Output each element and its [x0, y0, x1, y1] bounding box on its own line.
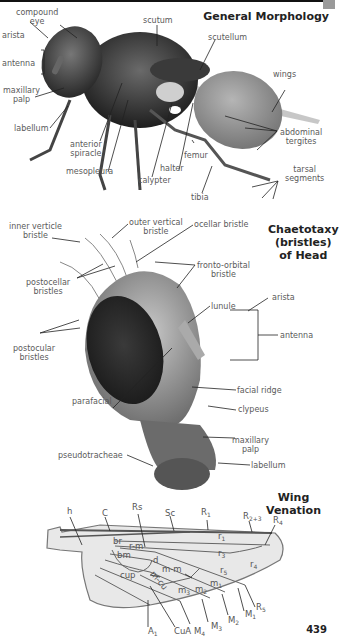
- cell-r5: r5: [220, 566, 227, 577]
- vein-R4: R4: [273, 516, 283, 527]
- label-maxillary-palp: maxillary palp: [3, 86, 40, 104]
- label-mesopleura: mesopleura: [66, 167, 113, 176]
- label-parafacial: parafacial: [72, 397, 112, 406]
- label-scutum: scutum: [143, 16, 173, 25]
- chaetotaxy-title: Chaetotaxy (bristles) of Head: [268, 223, 339, 262]
- vein-M2: M2: [228, 616, 239, 627]
- label-head-arista: arista: [272, 293, 295, 302]
- label-scutellum: scutellum: [208, 33, 247, 42]
- label-anterior-spiracle: anterior spiracle: [70, 140, 102, 158]
- vein-h: h: [67, 507, 72, 516]
- label-tarsal-segments: tarsal segments: [285, 165, 324, 183]
- label-halter: halter: [160, 164, 184, 173]
- cell-br: br: [113, 537, 122, 546]
- vein-CuA: CuA: [174, 627, 191, 636]
- cell-d: d: [153, 556, 158, 565]
- label-ocellar-bristle: ocellar bristle: [194, 220, 248, 229]
- vein-m-m: m-m: [162, 565, 182, 574]
- vein-M4: M4: [194, 627, 205, 638]
- label-tibia: tibia: [191, 193, 209, 202]
- cell-bm: bm: [117, 551, 131, 560]
- label-clypeus: clypeus: [238, 405, 269, 414]
- label-abdominal-tergites: abdominal tergites: [280, 128, 322, 146]
- cell-m2: m2: [195, 585, 207, 596]
- label-antenna: antenna: [2, 59, 35, 68]
- label-head-labellum: labellum: [251, 461, 285, 470]
- vein-R2-3: R2+3: [243, 512, 262, 523]
- label-outer-vertical-bristle: outer vertical bristle: [129, 218, 183, 236]
- label-head-maxillary-palp: maxillary palp: [232, 436, 269, 454]
- vein-C: C: [102, 509, 108, 518]
- label-calypter: calypter: [138, 176, 171, 185]
- label-head-antenna: antenna: [280, 331, 313, 340]
- vein-M3: M3: [211, 622, 222, 633]
- cell-m3: m3: [178, 586, 190, 597]
- label-fronto-orbital-bristle: fronto-orbital bristle: [197, 261, 250, 279]
- label-inner-verticle-bristle: inner verticle bristle: [9, 222, 62, 240]
- label-lunule: lunule: [211, 302, 236, 311]
- vein-r-m: r-m: [129, 542, 143, 551]
- label-compound-eye: compound eye: [16, 8, 58, 26]
- vein-Sc: Sc: [165, 509, 175, 518]
- wing-venation-title: Wing Venation: [252, 491, 335, 517]
- vein-M1: M1: [245, 610, 256, 621]
- vein-R5: R5: [256, 603, 266, 614]
- label-wings: wings: [273, 70, 296, 79]
- page-number: 439: [306, 624, 327, 635]
- label-labellum: labellum: [14, 124, 48, 133]
- label-postocular-bristles: postocular bristles: [13, 344, 55, 362]
- label-femur: femur: [184, 151, 208, 160]
- vein-R1: R1: [201, 508, 211, 519]
- cell-m1: m1: [210, 579, 222, 590]
- cell-cup: cup: [120, 571, 135, 580]
- label-pseudotracheae: pseudotracheae: [58, 451, 123, 460]
- vein-A1: A1: [148, 627, 158, 638]
- cell-r3: r3: [218, 549, 225, 560]
- label-facial-ridge: facial ridge: [237, 386, 282, 395]
- label-postocellar-bristles: postocellar bristles: [26, 278, 70, 296]
- cell-r4: r4: [250, 560, 257, 571]
- cell-r1: r1: [218, 532, 225, 543]
- vein-Rs: Rs: [132, 503, 142, 512]
- label-arista: arista: [2, 31, 25, 40]
